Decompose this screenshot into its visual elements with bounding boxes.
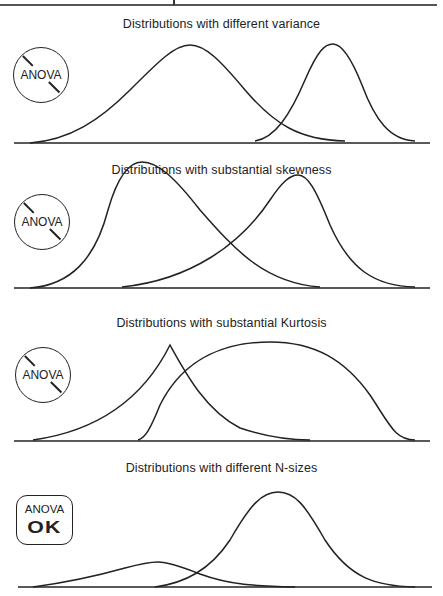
distribution-curves-layer — [0, 0, 443, 596]
curve-flat-platykurtic — [138, 342, 415, 440]
curve-peaked-leptokurtic — [33, 345, 310, 440]
curve-narrow-normal — [255, 44, 415, 141]
curve-wide-normal — [30, 45, 345, 143]
curve-right-skewed — [30, 162, 320, 288]
curve-large-n-distribution — [155, 492, 415, 587]
curve-left-skewed — [122, 175, 415, 287]
curve-small-n-distribution — [33, 562, 295, 587]
